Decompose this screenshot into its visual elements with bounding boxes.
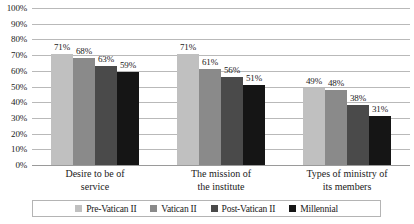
category-label: Desire to be ofservice: [32, 168, 158, 193]
bar: [221, 77, 243, 165]
bar-groups: 71%68%63%59%71%61%56%51%49%48%38%31%: [32, 8, 410, 165]
bar: [95, 66, 117, 165]
bar: [369, 116, 391, 165]
gridline: [32, 165, 410, 166]
bar: [199, 69, 221, 165]
category-label-line: the institute: [158, 181, 284, 194]
legend-item[interactable]: Millennial: [289, 204, 338, 214]
y-axis-tick-label: 0%: [15, 161, 27, 170]
bar-group: 71%61%56%51%: [158, 8, 284, 165]
bar-value-label: 48%: [321, 79, 351, 88]
plot-area: 71%68%63%59%71%61%56%51%49%48%38%31%: [32, 8, 410, 165]
bar-group: 71%68%63%59%: [32, 8, 158, 165]
y-axis-tick-label: 10%: [11, 145, 27, 154]
y-axis-tick-label: 60%: [11, 66, 27, 75]
legend-swatch-icon: [289, 205, 296, 212]
category-label: Types of ministry ofits members: [284, 168, 410, 193]
y-axis-tick-label: 30%: [11, 113, 27, 122]
bar-value-label: 31%: [365, 105, 395, 114]
y-axis: 0%10%20%30%40%50%60%70%80%90%100%: [0, 8, 30, 165]
legend-swatch-icon: [75, 205, 82, 212]
legend-item[interactable]: Vatican II: [150, 204, 196, 214]
y-axis-tick-label: 90%: [11, 19, 27, 28]
legend-swatch-icon: [211, 205, 218, 212]
legend-label: Millennial: [300, 204, 338, 214]
category-label-line: its members: [284, 181, 410, 194]
y-axis-tick-label: 40%: [11, 98, 27, 107]
bar: [117, 72, 139, 165]
legend-item[interactable]: Pre-Vatican II: [75, 204, 136, 214]
legend-label: Post-Vatican II: [222, 204, 276, 214]
category-label-line: Types of ministry of: [284, 168, 410, 181]
y-axis-tick-label: 50%: [11, 82, 27, 91]
y-axis-tick-label: 80%: [11, 35, 27, 44]
bar-group: 49%48%38%31%: [284, 8, 410, 165]
chart-legend: Pre-Vatican IIVatican IIPost-Vatican IIM…: [32, 200, 381, 217]
bar: [177, 54, 199, 165]
bar-value-label: 38%: [343, 94, 373, 103]
bar: [51, 54, 73, 165]
bar: [303, 88, 325, 165]
legend-label: Vatican II: [161, 204, 196, 214]
category-label-line: service: [32, 181, 158, 194]
legend-label: Pre-Vatican II: [86, 204, 136, 214]
bar-value-label: 71%: [173, 43, 203, 52]
legend-item[interactable]: Post-Vatican II: [211, 204, 276, 214]
category-label-line: Desire to be of: [32, 168, 158, 181]
bar-value-label: 51%: [239, 74, 269, 83]
category-label-line: The mission of: [158, 168, 284, 181]
category-axis-labels: Desire to be ofserviceThe mission ofthe …: [32, 168, 410, 198]
y-axis-tick-label: 70%: [11, 51, 27, 60]
legend-swatch-icon: [150, 205, 157, 212]
bar: [73, 58, 95, 165]
category-label: The mission ofthe institute: [158, 168, 284, 193]
bar-chart: 0%10%20%30%40%50%60%70%80%90%100% 71%68%…: [0, 0, 414, 224]
y-axis-tick-label: 100%: [7, 4, 27, 13]
bar-value-label: 59%: [113, 61, 143, 70]
bar: [243, 85, 265, 165]
y-axis-tick-label: 20%: [11, 129, 27, 138]
